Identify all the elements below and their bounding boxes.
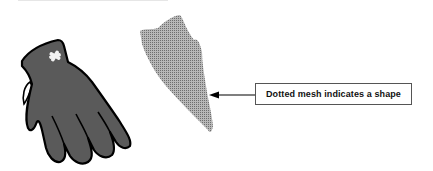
arrow-icon (209, 92, 255, 99)
callout-label: Dotted mesh indicates a shape (255, 83, 412, 105)
glove-icon (22, 40, 130, 164)
dotted-mesh-shape (140, 15, 213, 132)
